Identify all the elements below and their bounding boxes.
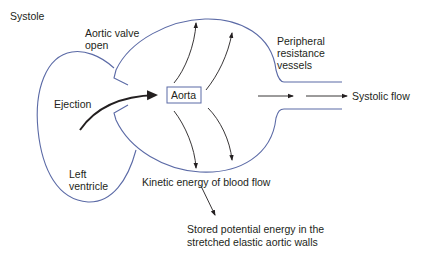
- label-peripheral-line1: Peripheral: [277, 35, 325, 47]
- label-stored-line2: stretched elastic aortic walls: [187, 236, 318, 248]
- down-arrow-2: [208, 108, 232, 160]
- label-stored-line1: Stored potential energy in the: [187, 223, 324, 235]
- aorta-lower-wall: [114, 105, 342, 172]
- title-systole: Systole: [10, 10, 45, 22]
- label-peripheral-line2: resistance: [277, 47, 325, 59]
- aorta-label: Aorta: [167, 87, 201, 103]
- up-arrow-2: [206, 33, 232, 90]
- label-ejection: Ejection: [54, 98, 92, 110]
- label-ventricle-line2: ventricle: [69, 180, 108, 192]
- diagram-canvas: Systole Aorta Aortic valve open Ejection…: [0, 0, 422, 260]
- label-peripheral-line3: vessels: [277, 59, 312, 71]
- label-systolic-flow: Systolic flow: [352, 90, 410, 102]
- label-valve-line1: Aortic valve: [85, 27, 139, 39]
- systole-diagram: Systole Aorta Aortic valve open Ejection…: [0, 0, 422, 260]
- label-valve-line2: open: [85, 39, 109, 51]
- energy-transfer-arrow: [201, 186, 215, 215]
- down-arrow-1: [174, 111, 196, 168]
- label-kinetic-energy: Kinetic energy of blood flow: [142, 176, 271, 188]
- label-ventricle-line1: Left: [69, 168, 87, 180]
- aorta-text: Aorta: [171, 89, 196, 101]
- up-arrow-1: [174, 23, 196, 83]
